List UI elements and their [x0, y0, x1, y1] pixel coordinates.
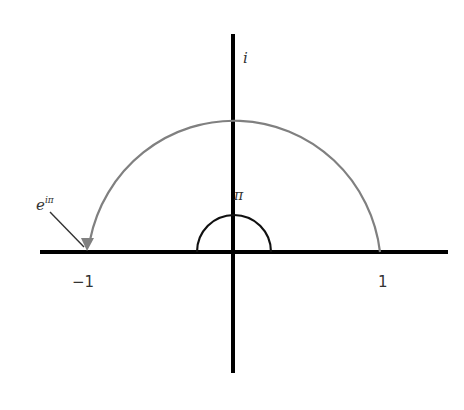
euler-label: eiπ — [36, 195, 55, 214]
angle-label: π — [233, 187, 244, 203]
one-label: 1 — [378, 273, 388, 291]
minus-one-label: −1 — [72, 273, 94, 291]
imaginary-label: i — [243, 49, 248, 67]
label-pointer — [50, 212, 84, 247]
euler-exponent: iπ — [45, 195, 55, 205]
arrowhead-icon — [81, 238, 94, 251]
complex-plane-diagram: i π eiπ −1 1 — [0, 0, 464, 410]
euler-base: e — [36, 196, 45, 214]
